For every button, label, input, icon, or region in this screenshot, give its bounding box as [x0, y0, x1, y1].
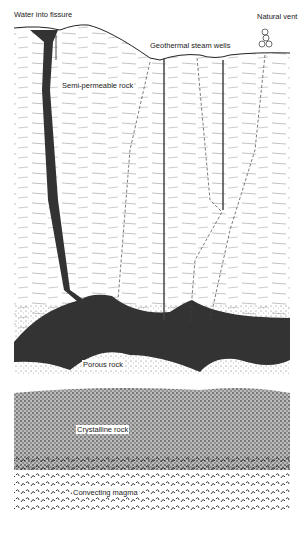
label-convecting-magma: Convecting magma: [72, 488, 139, 497]
label-natural-vent: Natural vent: [257, 12, 297, 21]
convecting-magma-layer: [14, 455, 290, 513]
label-porous-rock: Porous rock: [82, 360, 124, 369]
geothermal-diagram: [0, 0, 306, 534]
label-semi-permeable-rock: Semi-permeable rock: [61, 81, 134, 90]
steam-plume: [259, 29, 272, 47]
label-geothermal-steam-wells: Geothermal steam wells: [150, 41, 230, 50]
label-crystalline-rock: Crystalline rock: [76, 425, 129, 434]
label-water-into-fissure: Water into fissure: [14, 10, 72, 19]
